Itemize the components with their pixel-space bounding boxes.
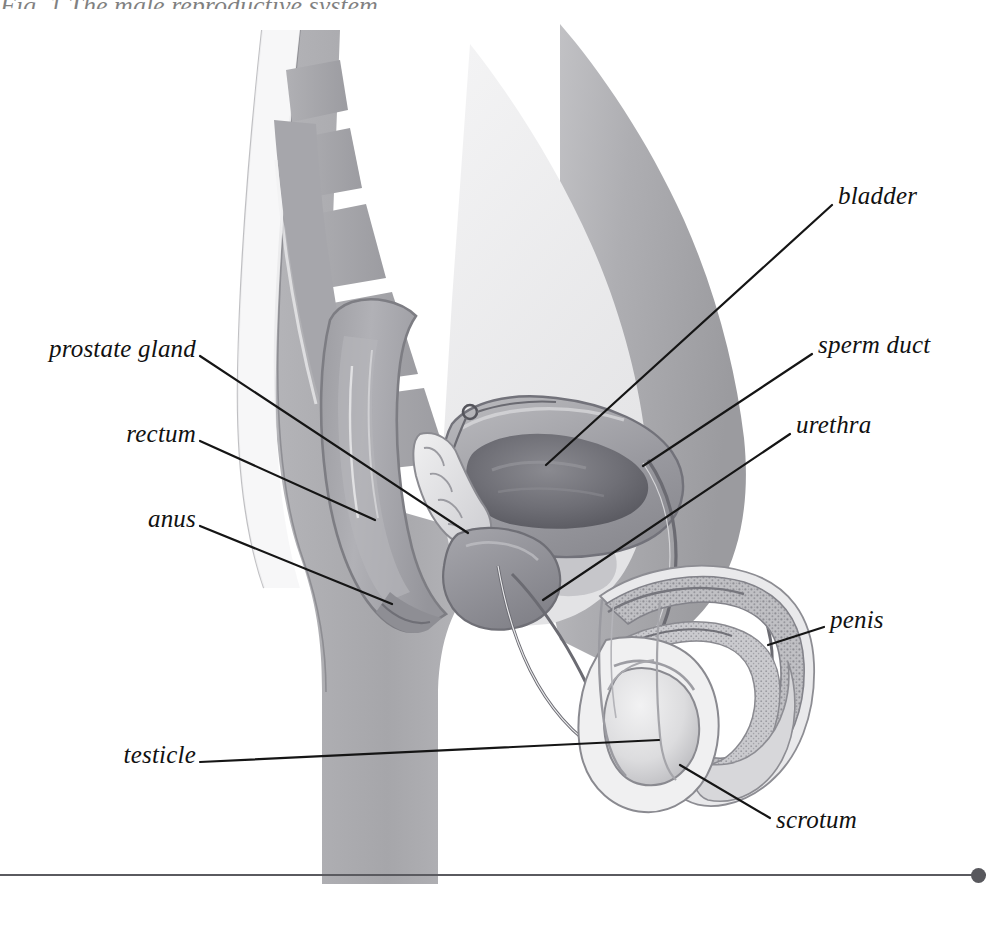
label-prostate-gland[interactable]: prostate gland: [0, 336, 196, 361]
label-bladder[interactable]: bladder: [838, 183, 917, 208]
diagram-canvas: Fig. 1 The male reproductive system: [0, 0, 1002, 929]
footer-dot-icon: [971, 868, 986, 883]
label-anus[interactable]: anus: [0, 506, 196, 531]
footer-line: [0, 874, 986, 876]
label-urethra[interactable]: urethra: [796, 412, 871, 437]
label-scrotum[interactable]: scrotum: [776, 807, 857, 832]
footer-rule: [0, 866, 1002, 886]
anatomy-illustration: [0, 0, 1002, 929]
label-testicle[interactable]: testicle: [0, 742, 196, 767]
label-penis[interactable]: penis: [830, 607, 884, 632]
label-sperm-duct[interactable]: sperm duct: [818, 332, 930, 357]
label-rectum[interactable]: rectum: [0, 421, 196, 446]
